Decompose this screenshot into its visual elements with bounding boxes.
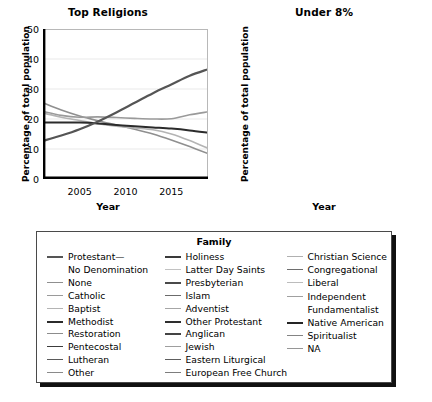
legend-item[interactable]: Pentecostal bbox=[47, 341, 165, 354]
legend-item-label: Independent bbox=[308, 291, 366, 303]
legend-swatch-line-icon bbox=[47, 290, 63, 301]
legend-swatch-line-icon bbox=[47, 341, 63, 352]
x-tick-label: 2005 bbox=[68, 186, 92, 197]
legend-item[interactable]: Anglican bbox=[165, 328, 287, 341]
legend-item-label: Islam bbox=[186, 290, 211, 302]
legend-item[interactable]: Latter Day Saints bbox=[165, 264, 287, 277]
legend-item[interactable]: Spiritualist bbox=[287, 330, 388, 343]
legend-swatch-line-icon bbox=[287, 343, 303, 354]
legend-item-label: Anglican bbox=[186, 328, 226, 340]
legend-item[interactable]: Protestant— bbox=[47, 251, 165, 264]
legend-item-label: Adventist bbox=[186, 303, 229, 315]
legend-item[interactable]: Other bbox=[47, 367, 165, 380]
y-axis-label-right: Percentage of total population bbox=[240, 32, 250, 182]
legend-item[interactable]: Restoration bbox=[47, 328, 165, 341]
legend-swatch-line-icon bbox=[47, 251, 63, 262]
legend-item[interactable]: Jewish bbox=[165, 341, 287, 354]
legend-swatch-line-icon bbox=[287, 291, 303, 302]
x-tick-label: 2010 bbox=[113, 186, 137, 197]
legend-swatch-line-icon bbox=[47, 303, 63, 314]
legend-item[interactable]: European Free Church bbox=[165, 367, 287, 380]
y-tick-label: 50 bbox=[27, 24, 39, 35]
plot-area-left: 01020304050200520102015 bbox=[43, 29, 208, 179]
legend-swatch-line-icon bbox=[47, 277, 63, 288]
legend-item[interactable]: Independent bbox=[287, 291, 388, 304]
chart-panel-top-religions: Top Religions Percentage of total popula… bbox=[0, 0, 216, 222]
legend-item-label: None bbox=[68, 277, 92, 289]
legend-swatch-line-icon bbox=[165, 367, 181, 378]
charts-row: Top Religions Percentage of total popula… bbox=[0, 0, 432, 222]
legend-item-label: European Free Church bbox=[186, 367, 288, 379]
legend-swatch-line-icon bbox=[165, 354, 181, 365]
legend-swatch-line-icon bbox=[47, 316, 63, 327]
legend-title: Family bbox=[37, 236, 391, 247]
legend-item[interactable]: Fundamentalist bbox=[287, 304, 388, 317]
legend-item-label: Baptist bbox=[68, 303, 100, 315]
x-axis-label-left: Year bbox=[0, 201, 216, 212]
chart-svg bbox=[43, 29, 208, 179]
legend-item-label: Christian Science bbox=[308, 251, 388, 263]
legend-item-label: Protestant— bbox=[68, 251, 124, 263]
chart-panel-under-8-percent: Under 8% Percentage of total population … bbox=[216, 0, 432, 222]
plot-background bbox=[43, 29, 208, 179]
legend-item[interactable]: Islam bbox=[165, 290, 287, 303]
legend-swatch-line-icon bbox=[165, 264, 181, 275]
y-tick-label: 30 bbox=[27, 84, 39, 95]
legend-item[interactable]: Congregational bbox=[287, 264, 388, 277]
legend-swatch-line-icon bbox=[165, 290, 181, 301]
legend-item-label: Presbyterian bbox=[186, 277, 244, 289]
legend-item[interactable]: NA bbox=[287, 343, 388, 356]
y-tick-label: 40 bbox=[27, 54, 39, 65]
legend-swatch-line-icon bbox=[165, 303, 181, 314]
chart-title-right: Under 8% bbox=[216, 6, 432, 18]
legend-item-label: Lutheran bbox=[68, 354, 109, 366]
legend-column-1: Protestant—No DenominationNoneCatholicBa… bbox=[47, 251, 165, 380]
legend-item[interactable]: Lutheran bbox=[47, 354, 165, 367]
legend-panel: Family Protestant—No DenominationNoneCat… bbox=[36, 231, 392, 383]
legend-swatch-line-icon bbox=[47, 354, 63, 365]
legend-item[interactable]: Baptist bbox=[47, 303, 165, 316]
legend-item[interactable]: Other Protestant bbox=[165, 316, 287, 329]
legend-item-label: Fundamentalist bbox=[308, 304, 379, 316]
legend-item[interactable]: None bbox=[47, 277, 165, 290]
legend-item-label: Liberal bbox=[308, 277, 339, 289]
legend-item-label: Pentecostal bbox=[68, 341, 121, 353]
legend-item[interactable]: No Denomination bbox=[47, 264, 165, 277]
legend-item-label: Catholic bbox=[68, 290, 105, 302]
legend-column-3: Christian ScienceCongregationalLiberalIn… bbox=[287, 251, 388, 380]
legend-swatch-line-icon bbox=[287, 330, 303, 341]
legend-swatch-line-icon bbox=[165, 341, 181, 352]
legend-swatch-line-icon bbox=[287, 251, 303, 262]
x-axis-label-right: Year bbox=[216, 201, 432, 212]
legend-item-label: Latter Day Saints bbox=[186, 264, 266, 276]
legend-swatch-line-icon bbox=[47, 367, 63, 378]
legend-item-label: Jewish bbox=[186, 341, 215, 353]
chart-title-left: Top Religions bbox=[0, 6, 216, 18]
legend-item-label: NA bbox=[308, 343, 321, 355]
legend-item-label: Congregational bbox=[308, 264, 378, 276]
legend-item[interactable]: Presbyterian bbox=[165, 277, 287, 290]
legend-swatch-line-icon bbox=[165, 251, 181, 262]
y-tick-label: 0 bbox=[33, 174, 39, 185]
legend-item[interactable]: Eastern Liturgical bbox=[165, 354, 287, 367]
legend-item-label: Other Protestant bbox=[186, 316, 262, 328]
legend-swatch-line-icon bbox=[287, 277, 303, 288]
legend-item[interactable]: Holiness bbox=[165, 251, 287, 264]
legend-item[interactable]: Liberal bbox=[287, 277, 388, 290]
legend-swatch-line-icon bbox=[165, 328, 181, 339]
legend-item[interactable]: Christian Science bbox=[287, 251, 388, 264]
legend-item[interactable]: Methodist bbox=[47, 316, 165, 329]
y-tick-label: 20 bbox=[27, 114, 39, 125]
legend-swatch-line-icon bbox=[165, 277, 181, 288]
legend-item-label: Other bbox=[68, 367, 94, 379]
legend-columns: Protestant—No DenominationNoneCatholicBa… bbox=[47, 251, 387, 380]
legend-item-label: No Denomination bbox=[68, 264, 148, 276]
legend-item-label: Spiritualist bbox=[308, 330, 357, 342]
y-tick-label: 10 bbox=[27, 144, 39, 155]
legend-item[interactable]: Catholic bbox=[47, 290, 165, 303]
legend-item-label: Eastern Liturgical bbox=[186, 354, 266, 366]
legend-item[interactable]: Native American bbox=[287, 317, 388, 330]
legend-item[interactable]: Adventist bbox=[165, 303, 287, 316]
legend-swatch-line-icon bbox=[47, 328, 63, 339]
legend-item-label: Methodist bbox=[68, 316, 113, 328]
